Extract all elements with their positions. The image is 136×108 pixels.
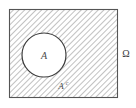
- diagram-canvas: A A c Ω: [0, 0, 136, 108]
- complement-label: A: [57, 81, 64, 91]
- set-diagram-figure: A A c Ω: [0, 0, 136, 108]
- universe-omega-label: Ω: [122, 48, 129, 59]
- set-a-label: A: [40, 50, 48, 61]
- complement-superscript-label: c: [66, 80, 69, 86]
